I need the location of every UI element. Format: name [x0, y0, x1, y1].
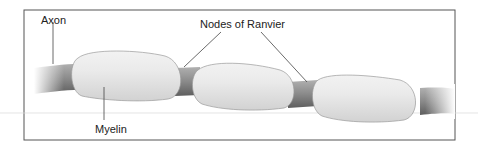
myelin-label: Myelin — [95, 123, 127, 135]
myelinated-axon-diagram: Axon Nodes of Ranvier Myelin — [0, 0, 478, 150]
axon-label: Axon — [41, 14, 66, 26]
nodes-of-ranvier-label: Nodes of Ranvier — [200, 18, 285, 30]
nodes-leader-line-1 — [184, 32, 221, 67]
myelin-sheath — [72, 51, 416, 122]
